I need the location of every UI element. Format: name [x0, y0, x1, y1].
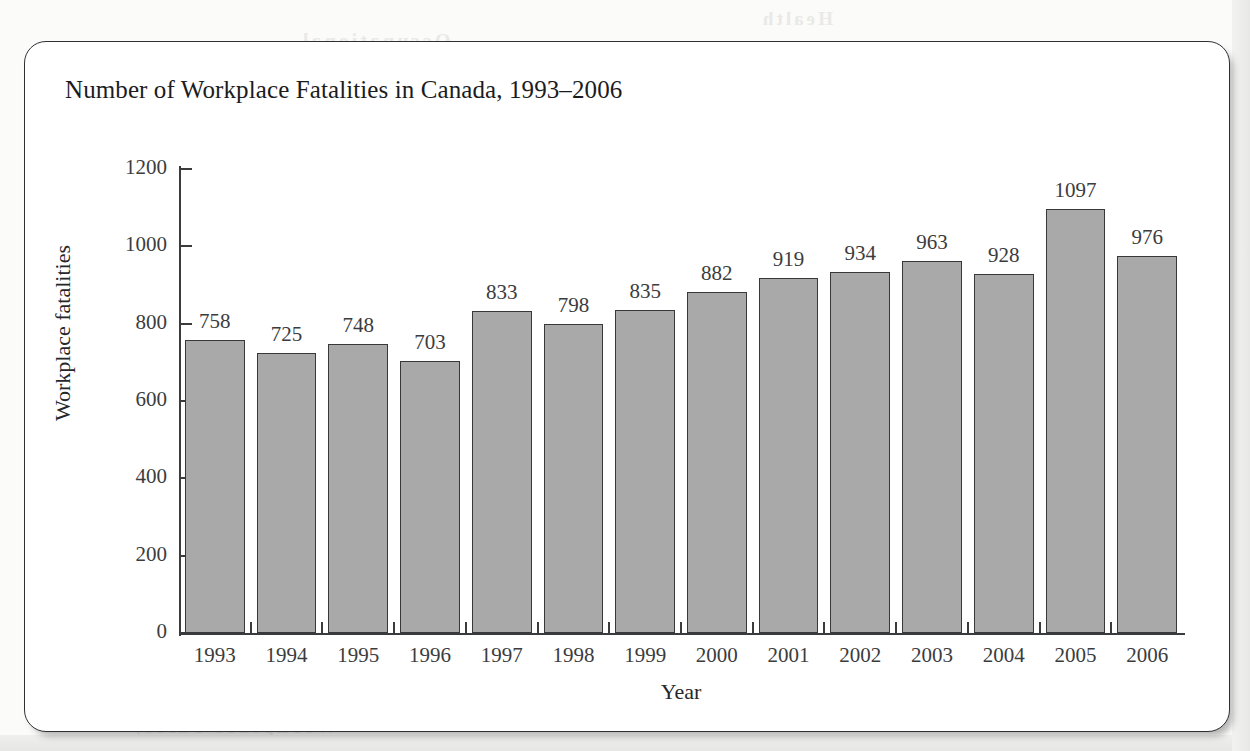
bar-group: 7251994: [251, 169, 323, 633]
x-axis-tick-label: 2005: [1040, 643, 1112, 668]
x-axis-tick-label: 1996: [394, 643, 466, 668]
x-axis-tick-label: 2002: [824, 643, 896, 668]
bar-group: 7581993: [179, 169, 251, 633]
x-axis-tick-label: 2004: [968, 643, 1040, 668]
bar-value-label: 1097: [1040, 178, 1112, 203]
bar-group: 7981998: [538, 169, 610, 633]
scan-right-shade: [1232, 0, 1250, 751]
bar-group: 7481995: [322, 169, 394, 633]
y-axis-tick-label: 200: [97, 542, 167, 567]
x-axis-tick-label: 1995: [322, 643, 394, 668]
showthrough-line-5: Health: [760, 8, 833, 30]
bar[interactable]: [1046, 209, 1106, 633]
y-axis-tick-label: 400: [97, 464, 167, 489]
y-axis-tick-label: 0: [97, 619, 167, 644]
bar-group: 10972005: [1040, 169, 1112, 633]
x-axis-tick-label: 1994: [251, 643, 323, 668]
y-axis-tick-label: 1200: [97, 155, 167, 180]
bar-group: 7031996: [394, 169, 466, 633]
bar[interactable]: [615, 310, 675, 633]
bar[interactable]: [257, 353, 317, 633]
bar[interactable]: [185, 340, 245, 633]
bar-value-label: 833: [466, 280, 538, 305]
bar-value-label: 882: [681, 261, 753, 286]
bar-value-label: 725: [251, 322, 323, 347]
bar-value-label: 976: [1111, 225, 1183, 250]
bar-group: 9762006: [1111, 169, 1183, 633]
bar[interactable]: [902, 261, 962, 633]
bar-value-label: 748: [322, 313, 394, 338]
bar-group: 9632003: [896, 169, 968, 633]
y-axis-tick-label: 1000: [97, 232, 167, 257]
bars-container: 7581993725199474819957031996833199779819…: [179, 169, 1183, 633]
x-axis-tick-label: 2003: [896, 643, 968, 668]
bar-group: 8822000: [681, 169, 753, 633]
x-axis-tick-label: 1993: [179, 643, 251, 668]
x-axis-tick-label: 2000: [681, 643, 753, 668]
bar-value-label: 963: [896, 230, 968, 255]
bar-value-label: 919: [753, 247, 825, 272]
x-axis-tick-label: 2006: [1111, 643, 1183, 668]
y-axis-tick-label: 600: [97, 387, 167, 412]
bar-group: 8351999: [609, 169, 681, 633]
bar[interactable]: [544, 324, 604, 633]
x-axis-tick-label: 1999: [609, 643, 681, 668]
x-axis-spine: [179, 633, 1185, 635]
bar-value-label: 758: [179, 309, 251, 334]
bar-value-label: 798: [538, 293, 610, 318]
bar-group: 9342002: [824, 169, 896, 633]
y-axis-title: Workplace fatalities: [50, 183, 76, 483]
x-axis-tick-label: 2001: [753, 643, 825, 668]
bar-value-label: 934: [824, 241, 896, 266]
bar[interactable]: [830, 272, 890, 633]
figure-card: Number of Workplace Fatalities in Canada…: [24, 41, 1230, 732]
bar-group: 8331997: [466, 169, 538, 633]
bar[interactable]: [1117, 256, 1177, 633]
bar-group: 9192001: [753, 169, 825, 633]
bar-value-label: 835: [609, 279, 681, 304]
y-axis-tick-label: 800: [97, 310, 167, 335]
x-axis-tick-label: 1998: [538, 643, 610, 668]
bar[interactable]: [328, 344, 388, 633]
bar[interactable]: [687, 292, 747, 633]
x-axis-tick-label: 1997: [466, 643, 538, 668]
bar-chart: 020040060080010001200 758199372519947481…: [25, 42, 1229, 731]
bar[interactable]: [400, 361, 460, 633]
bar-value-label: 928: [968, 243, 1040, 268]
bar[interactable]: [472, 311, 532, 633]
bar-value-label: 703: [394, 330, 466, 355]
scan-bottom-shade: [0, 735, 1250, 751]
bar-group: 9282004: [968, 169, 1040, 633]
x-axis-title: Year: [179, 679, 1183, 705]
bar[interactable]: [759, 278, 819, 633]
bar[interactable]: [974, 274, 1034, 633]
